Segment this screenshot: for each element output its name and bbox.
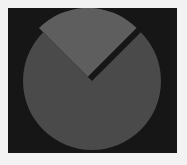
chart-plot-panel — [8, 8, 177, 153]
screenshot-root — [0, 0, 187, 165]
pie-chart-svg[interactable] — [8, 8, 177, 153]
